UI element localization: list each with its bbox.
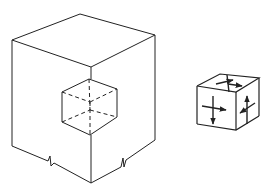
left-face-arrow-icon [202, 96, 226, 124]
inner-cube [62, 79, 117, 135]
break-mark-right [91, 140, 155, 183]
large-cube [12, 14, 155, 183]
break-mark-left [12, 146, 91, 183]
diagram-canvas [0, 0, 270, 195]
small-cube-arrows [202, 75, 255, 124]
cube-figure [0, 0, 270, 195]
